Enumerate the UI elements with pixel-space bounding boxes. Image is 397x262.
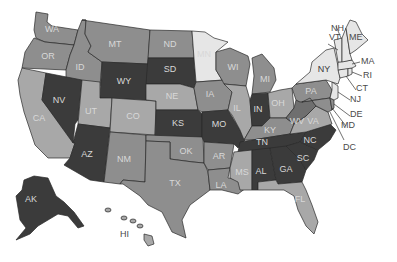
label-UT: UT	[85, 106, 97, 116]
state-RI[interactable]	[348, 68, 352, 76]
label-WA: WA	[45, 24, 59, 34]
label-VA: VA	[307, 116, 318, 126]
us-choropleth-map: WA OR CA ID NV MT WY UT AZ CO NM ND SD N…	[0, 0, 397, 262]
label-NJ: NJ	[350, 94, 361, 104]
label-SC: SC	[297, 153, 310, 163]
label-OH: OH	[271, 98, 285, 108]
label-MT: MT	[109, 39, 122, 49]
label-WV: WV	[290, 116, 305, 126]
label-NC: NC	[304, 135, 317, 145]
label-DE: DE	[350, 109, 363, 119]
label-NY: NY	[318, 64, 331, 74]
label-MD: MD	[341, 120, 355, 130]
label-OR: OR	[41, 51, 55, 61]
label-FL: FL	[295, 194, 306, 204]
label-ME: ME	[349, 32, 363, 42]
label-PA: PA	[305, 86, 316, 96]
label-LA: LA	[215, 180, 226, 190]
label-AL: AL	[255, 166, 266, 176]
label-AZ: AZ	[81, 149, 93, 159]
label-IA: IA	[206, 89, 215, 99]
label-TN: TN	[256, 137, 268, 147]
label-AR: AR	[213, 151, 226, 161]
label-WY: WY	[117, 76, 132, 86]
state-AK[interactable]	[16, 176, 84, 240]
label-NV: NV	[53, 95, 66, 105]
label-NH: NH	[331, 23, 344, 33]
label-TX: TX	[169, 178, 181, 188]
label-AK: AK	[25, 194, 37, 204]
label-KS: KS	[172, 118, 184, 128]
label-CA: CA	[33, 113, 46, 123]
label-CO: CO	[126, 111, 140, 121]
label-NE: NE	[166, 91, 179, 101]
label-WI: WI	[228, 62, 239, 72]
label-VT: VT	[329, 32, 341, 42]
label-IL: IL	[233, 103, 241, 113]
label-ID: ID	[76, 62, 86, 72]
label-MS: MS	[235, 167, 249, 177]
label-KY: KY	[264, 125, 276, 135]
label-HI: HI	[120, 229, 129, 239]
label-GA: GA	[279, 164, 292, 174]
label-IN: IN	[254, 104, 263, 114]
label-MO: MO	[212, 119, 227, 129]
label-MA: MA	[361, 56, 375, 66]
label-MI: MI	[260, 74, 270, 84]
label-CT: CT	[356, 83, 368, 93]
label-RI: RI	[363, 70, 372, 80]
label-SD: SD	[164, 64, 177, 74]
label-DC: DC	[343, 142, 356, 152]
label-ND: ND	[164, 39, 177, 49]
state-FL[interactable]	[258, 180, 318, 234]
label-OK: OK	[179, 146, 192, 156]
label-NM: NM	[117, 154, 131, 164]
state-HI[interactable]	[105, 208, 154, 246]
label-MN: MN	[197, 49, 211, 59]
